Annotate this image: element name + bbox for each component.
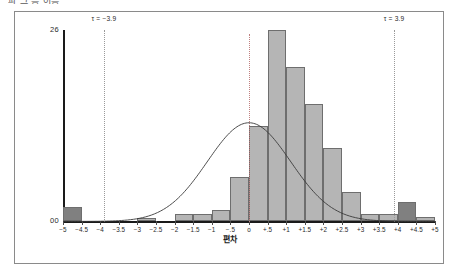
histogram-bar (361, 214, 380, 221)
x-tick-label: +5 (424, 226, 446, 233)
histogram-bar (249, 126, 268, 222)
histogram-bar (175, 214, 194, 221)
histogram-bar (342, 192, 361, 221)
histogram-bar (416, 217, 435, 221)
cropped-header-text: 파 그 름 이름 (8, 0, 208, 4)
histogram-bars (15, 12, 445, 222)
histogram-bar (193, 214, 212, 221)
threshold-upper-line (394, 30, 395, 222)
histogram-bar (286, 67, 305, 222)
histogram-bar (323, 148, 342, 222)
chart-frame: 26 00 −5−4.5−4−3.5−3−2.5−2−1.5−1−.5o+.5+… (14, 11, 444, 264)
histogram-bar (305, 104, 324, 222)
threshold-lower-label: τ = −3.9 (74, 15, 134, 22)
histogram-bar (268, 30, 287, 221)
plot-area: 26 00 −5−4.5−4−3.5−3−2.5−2−1.5−1−.5o+.5+… (15, 12, 445, 265)
threshold-upper-label: τ = 3.9 (364, 15, 424, 22)
histogram-bar (137, 218, 156, 221)
histogram-bar (212, 210, 231, 222)
x-axis-title: 편차 (15, 233, 445, 244)
histogram-bar (230, 177, 249, 221)
center-reference-line (249, 34, 250, 222)
threshold-lower-line (104, 30, 105, 222)
histogram-bar-outlier (63, 207, 82, 222)
histogram-bar-outlier (398, 202, 417, 221)
